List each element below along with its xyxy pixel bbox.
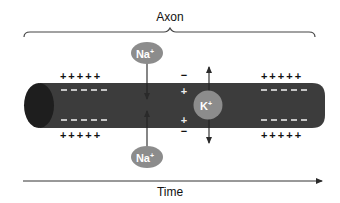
axon-diagram: Axon +++++ +++++ +++++ +++++ − + + − Na+… xyxy=(0,0,340,203)
axon-title: Axon xyxy=(156,10,183,24)
mid-outer-bottom-charge: − xyxy=(181,125,187,137)
left-outer-top-charges: +++++ xyxy=(60,70,102,82)
axon-cylinder xyxy=(24,83,325,128)
axon-brace xyxy=(24,28,315,37)
left-outer-bottom-charges: +++++ xyxy=(60,129,102,141)
k-ion: K+ xyxy=(194,91,223,120)
na-ion-bottom: Na+ xyxy=(131,146,163,168)
time-label: Time xyxy=(157,185,184,199)
right-outer-top-charges: +++++ xyxy=(261,70,303,82)
na-ion-top: Na+ xyxy=(131,42,163,64)
axon-end-cap xyxy=(24,83,54,128)
right-outer-bottom-charges: +++++ xyxy=(261,129,303,141)
mid-inner-top-charge: + xyxy=(181,85,187,97)
mid-outer-top-charge: − xyxy=(181,69,187,81)
